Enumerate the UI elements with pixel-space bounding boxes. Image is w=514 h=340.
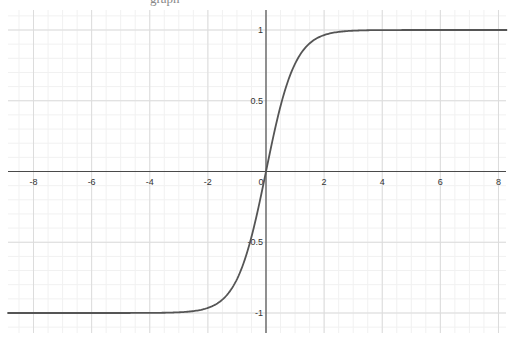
- x-tick-label: -6: [88, 177, 96, 187]
- y-tick-label: 1: [258, 25, 263, 35]
- function-graph[interactable]: -8-6-4-202468 -1-0.50.51: [0, 0, 514, 340]
- x-tick-label: -4: [146, 177, 154, 187]
- y-tick-label: 0.5: [250, 96, 263, 106]
- x-tick-label: 6: [438, 177, 443, 187]
- x-tick-label: 2: [322, 177, 327, 187]
- x-tick-label: -8: [30, 177, 38, 187]
- x-tick-label: 4: [380, 177, 385, 187]
- x-tick-label: 8: [496, 177, 501, 187]
- y-tick-label: -1: [255, 308, 263, 318]
- x-tick-label: -2: [204, 177, 212, 187]
